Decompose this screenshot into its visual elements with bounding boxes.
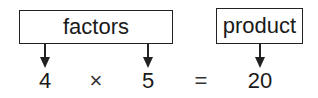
factor-1: 4 [39, 68, 51, 94]
factor-2: 5 [142, 68, 154, 94]
factors-box: factors [19, 10, 173, 44]
equals-sign: = [195, 68, 208, 94]
multiply-sign: × [90, 68, 103, 94]
product-label: product [223, 13, 296, 39]
product-value: 20 [248, 68, 272, 94]
factors-label: factors [63, 14, 129, 40]
product-box: product [216, 8, 303, 44]
